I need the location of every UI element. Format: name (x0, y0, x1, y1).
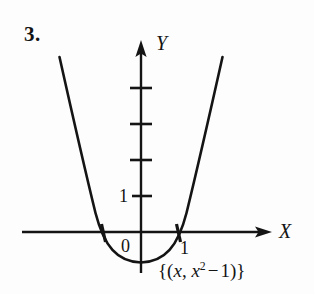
axis-label-y: Y (156, 33, 167, 53)
origin-label: 0 (121, 237, 130, 255)
y-axis-tick-label-one: 1 (119, 187, 128, 205)
set-exponent: 2 (200, 260, 206, 273)
root-tick-left (102, 224, 106, 242)
problem-number: 3. (24, 24, 41, 45)
x-axis-tick-label-one: 1 (180, 239, 189, 257)
set-notation: {(x, x2−1)} (158, 261, 245, 280)
set-second-variable: x (191, 260, 199, 281)
set-comma: , (182, 260, 192, 281)
set-first-variable: x (173, 260, 181, 281)
set-constant: 1 (220, 260, 230, 281)
figure-canvas: 3. Y X 1 0 1 {(x, x2−1)} (0, 0, 314, 294)
set-close-brace: )} (230, 260, 245, 281)
set-open-brace: {( (158, 260, 173, 281)
set-minus-sign: − (206, 260, 221, 281)
axis-label-x: X (279, 221, 291, 241)
